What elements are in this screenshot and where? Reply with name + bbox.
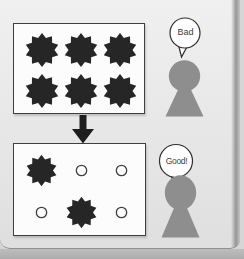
good-person-figure [160,175,201,238]
down-arrow-icon [71,115,95,144]
good-label: Good! [157,156,196,166]
spiky-blob-icon [102,32,138,68]
bad-label: Bad [168,27,203,37]
spiky-blob-icon [65,196,98,229]
bad-person-figure [164,60,205,117]
empty-circle-icon [115,206,128,219]
page-bottom-shadow [0,249,244,259]
empty-circle-icon [35,206,48,219]
spiky-blob-icon [63,73,99,109]
before-box [13,23,145,114]
empty-circle-icon [115,164,128,177]
spiky-blob-icon [102,73,138,109]
spiky-blob-icon [24,73,60,109]
after-box [13,143,146,236]
empty-circle-icon [75,164,88,177]
bad-speech-bubble: Bad [168,16,203,59]
page-fold-edge [231,0,240,248]
spiky-blob-icon [24,32,60,68]
spiky-blob-icon [63,32,99,68]
spiky-blob-icon [25,154,58,187]
figure-canvas: Bad Good! [0,0,244,259]
